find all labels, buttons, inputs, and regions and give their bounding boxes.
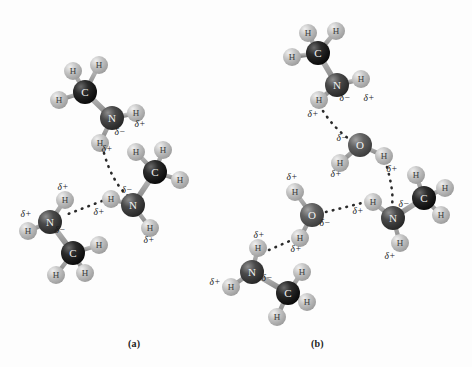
atom-h: H <box>76 264 94 282</box>
atom-label: N <box>108 112 116 124</box>
atom-label: H <box>337 158 344 168</box>
atom-c: C <box>412 186 436 210</box>
atom-c: C <box>61 241 85 265</box>
charge-label: δ− <box>340 93 351 103</box>
charge-label: δ+ <box>21 209 32 219</box>
atom-h: H <box>310 91 328 109</box>
atom-label: H <box>358 74 365 84</box>
atom-h: H <box>375 147 393 165</box>
charge-label: δ+ <box>353 206 364 216</box>
atom-h: H <box>407 166 425 184</box>
atom-h: H <box>391 234 409 252</box>
atom-h: H <box>127 143 145 161</box>
atom-h: H <box>327 22 345 40</box>
charge-label: δ− <box>55 225 66 235</box>
atom-label: H <box>316 95 323 105</box>
cut-off-caption-text <box>0 358 472 367</box>
charge-label: δ+ <box>287 172 298 182</box>
atom-label: H <box>177 175 184 185</box>
charge-label: δ− <box>262 273 273 283</box>
atom-label: H <box>274 312 281 322</box>
atom-label: O <box>356 139 364 151</box>
charge-label: δ+ <box>58 182 69 192</box>
atom-label: N <box>333 79 341 91</box>
atom-h: H <box>298 293 316 311</box>
charge-label: δ+ <box>94 207 105 217</box>
panel-a-atoms: CHHHNHHCHHHNHHNHHCHHH <box>19 56 189 284</box>
atom-label: C <box>420 192 427 204</box>
hbond-amineH-to-waterO2 <box>269 240 292 250</box>
atom-label: H <box>255 243 262 253</box>
atom-label: C <box>151 166 158 178</box>
atom-c: C <box>276 281 300 305</box>
charge-label: δ+ <box>387 164 398 174</box>
atom-h: H <box>90 236 108 254</box>
atom-n: N <box>121 193 145 217</box>
atom-label: C <box>314 47 321 59</box>
charge-label: δ+ <box>102 144 113 154</box>
atom-h: H <box>154 141 172 159</box>
atom-n: N <box>381 206 405 230</box>
atom-label: H <box>160 145 167 155</box>
panel-label-b: (b) <box>311 338 324 349</box>
atom-label: H <box>56 95 63 105</box>
atom-label: C <box>81 86 88 98</box>
atom-label: H <box>304 297 311 307</box>
atom-label: H <box>25 226 32 236</box>
atom-label: H <box>108 194 115 204</box>
atom-h: H <box>299 24 317 42</box>
atom-label: H <box>305 28 312 38</box>
charge-label: δ+ <box>135 119 146 129</box>
atom-label: H <box>82 268 89 278</box>
atom-h: H <box>436 179 454 197</box>
atom-h: H <box>19 222 37 240</box>
atom-label: H <box>397 238 404 248</box>
atom-h: H <box>283 48 301 66</box>
atom-label: C <box>284 287 291 299</box>
atom-h: H <box>222 278 240 296</box>
molecular-figure: CHHHNHHCHHHNHHNHHCHHH δ−δ+δ+δ−δ+δ+δ+δ+δ−… <box>0 0 472 367</box>
atom-h: H <box>171 171 189 189</box>
atom-h: H <box>102 190 120 208</box>
charge-label: δ− <box>122 185 133 195</box>
atom-label: H <box>299 267 306 277</box>
atom-h: H <box>286 183 304 201</box>
atom-label: H <box>53 270 60 280</box>
atom-label: H <box>333 26 340 36</box>
atom-c: C <box>73 80 97 104</box>
atom-label: H <box>228 282 235 292</box>
atom-label: H <box>442 183 449 193</box>
atom-label: O <box>308 209 316 221</box>
charge-label: δ− <box>337 133 348 143</box>
atom-h: H <box>352 70 370 88</box>
atom-label: H <box>438 210 445 220</box>
atom-label: N <box>389 212 397 224</box>
atom-label: H <box>96 60 103 70</box>
atom-c: C <box>306 41 330 65</box>
atom-label: N <box>129 199 137 211</box>
atom-h: H <box>293 263 311 281</box>
molecule-canvas: CHHHNHHCHHHNHHNHHCHHH δ−δ+δ+δ−δ+δ+δ+δ+δ−… <box>0 0 472 367</box>
charge-label: δ+ <box>331 169 342 179</box>
charge-label: δ− <box>115 127 126 137</box>
atom-h: H <box>90 56 108 74</box>
atom-label: H <box>297 233 304 243</box>
atom-label: H <box>147 223 154 233</box>
charge-label: δ− <box>320 218 331 228</box>
charge-label: δ+ <box>144 235 155 245</box>
atom-label: H <box>381 151 388 161</box>
atom-h: H <box>64 62 82 80</box>
atom-label: H <box>133 147 140 157</box>
atom-o: O <box>348 133 372 157</box>
atom-h: H <box>249 239 267 257</box>
atom-n: N <box>240 260 264 284</box>
atom-label: H <box>133 108 140 118</box>
atom-label: H <box>70 66 77 76</box>
atom-label: N <box>46 216 54 228</box>
atom-label: H <box>370 197 377 207</box>
atom-label: H <box>62 195 69 205</box>
atom-label: H <box>413 170 420 180</box>
charge-label: δ+ <box>385 251 396 261</box>
atom-h: H <box>364 193 382 211</box>
charge-label: δ+ <box>308 109 319 119</box>
